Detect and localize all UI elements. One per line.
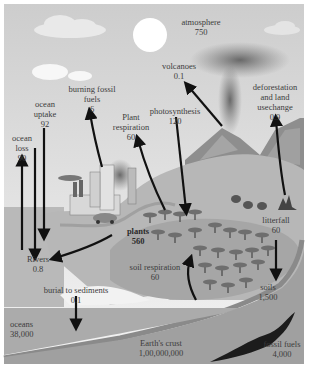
carbon-cycle-illustration [0, 0, 309, 371]
label-value: 120 [150, 116, 201, 126]
label-value: 60 [113, 132, 149, 142]
label-value: 4,000 [263, 349, 300, 359]
label-text: litterfall [262, 215, 289, 225]
label-volcanoes: volcanoes 0.1 [162, 61, 196, 81]
label-text: ocean [12, 133, 32, 143]
label-text: Earth's crust [139, 338, 184, 348]
label-rivers: Rivers 0.8 [27, 254, 49, 274]
label-value: 0.8 [27, 264, 49, 274]
label-value: 92 [34, 119, 57, 129]
label-value: 6 [69, 104, 116, 114]
label-burial-to-sediments: burial to sediments 0.1 [44, 285, 109, 305]
label-soil-respiration: soil respiration 60 [130, 262, 181, 282]
label-text: respiration [113, 122, 149, 132]
label-text: soils [258, 282, 277, 292]
label-text: usechange [253, 102, 297, 112]
label-soils: soils 1,500 [258, 282, 277, 302]
label-ocean-loss: ocean loss 90 [12, 133, 32, 163]
label-value: 560 [127, 236, 149, 246]
label-litterfall: litterfall 60 [262, 215, 289, 235]
label-text: burial to sediments [44, 285, 109, 295]
label-text: fuels [69, 94, 116, 104]
label-text: uptake [34, 109, 57, 119]
label-text: Plant [113, 112, 149, 122]
label-text: soil respiration [130, 262, 181, 272]
label-value: 1,500 [258, 292, 277, 302]
label-text: burning fossil [69, 84, 116, 94]
label-photosynthesis: photosynthesis 120 [150, 106, 201, 126]
label-text: and land [253, 92, 297, 102]
car-icon [93, 213, 117, 224]
label-value: 60 [130, 272, 181, 282]
label-text: deforestation [253, 82, 297, 92]
label-text: atmosphere [181, 17, 220, 27]
label-value: 90 [12, 153, 32, 163]
label-text: photosynthesis [150, 106, 201, 116]
label-ocean-uptake: ocean uptake 92 [34, 99, 57, 129]
label-value: 0.9 [253, 112, 297, 122]
label-fossil-fuels: fossil fuels 4,000 [263, 339, 300, 359]
label-plant-respiration: Plant respiration 60 [113, 112, 149, 142]
label-oceans: oceans 38,000 [10, 319, 33, 339]
label-atmosphere: atmosphere 750 [181, 17, 220, 37]
label-value: 0.1 [162, 71, 196, 81]
label-earths-crust: Earth's crust 1,00,000,000 [139, 338, 184, 358]
label-text: loss [12, 143, 32, 153]
label-text: volcanoes [162, 61, 196, 71]
label-burning-fossil-fuels: burning fossil fuels 6 [69, 84, 116, 114]
label-text: ocean [34, 99, 57, 109]
label-text: fossil fuels [263, 339, 300, 349]
label-deforestation: deforestation and land usechange 0.9 [253, 82, 297, 122]
label-text: oceans [10, 319, 33, 329]
label-value: 60 [262, 225, 289, 235]
label-text: plants [127, 226, 149, 236]
sun-icon [133, 18, 167, 52]
label-plants: plants 560 [127, 226, 149, 246]
label-value: 38,000 [10, 329, 33, 339]
label-value: 750 [181, 27, 220, 37]
label-value: 1,00,000,000 [139, 348, 184, 358]
label-text: Rivers [27, 254, 49, 264]
label-value: 0.1 [44, 295, 109, 305]
